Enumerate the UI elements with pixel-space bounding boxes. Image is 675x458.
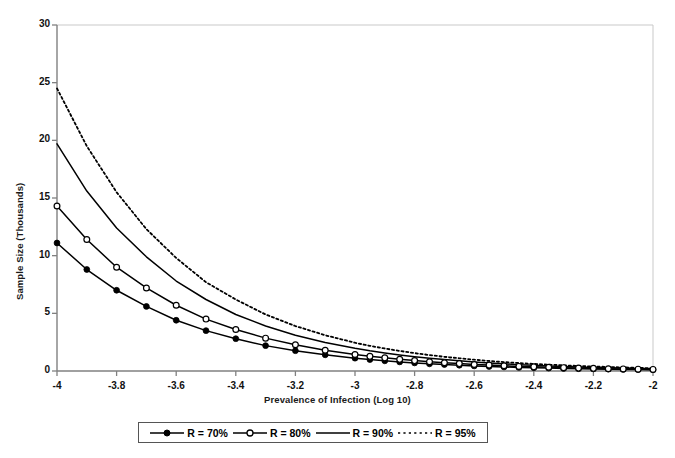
data-point-marker — [352, 352, 358, 358]
legend-label: R = 70% — [186, 427, 230, 439]
y-axis-tick-label: 30 — [10, 18, 50, 29]
data-point-marker — [561, 365, 567, 371]
data-point-marker — [144, 304, 150, 310]
data-point-marker — [620, 366, 626, 372]
data-point-marker — [263, 335, 269, 341]
x-axis-tick-label: -2 — [628, 380, 675, 391]
legend-label: R = 95% — [434, 427, 478, 439]
data-point-marker — [203, 316, 209, 322]
data-point-marker — [605, 366, 611, 372]
data-point-marker — [322, 347, 328, 353]
x-axis-title: Prevalence of Infection (Log 10) — [0, 394, 675, 405]
y-axis-tick-label: 0 — [10, 364, 50, 375]
x-axis-tick-label: -3.4 — [211, 380, 261, 391]
series-line-2 — [57, 144, 653, 369]
legend-swatch-filled-circle-solid — [148, 427, 186, 439]
y-axis-tick-label: 15 — [10, 191, 50, 202]
data-point-marker — [516, 363, 522, 369]
y-axis-tick-label: 20 — [10, 133, 50, 144]
data-point-marker — [546, 364, 552, 370]
data-point-marker — [367, 353, 373, 359]
data-point-marker — [442, 360, 448, 366]
legend-marker — [164, 430, 170, 436]
data-point-marker — [635, 366, 641, 372]
legend-item-3: R = 95% — [396, 427, 478, 439]
x-axis-tick-label: -3 — [330, 380, 380, 391]
data-point-marker — [486, 362, 492, 368]
legend-swatch-none-solid — [314, 427, 352, 439]
data-point-marker — [54, 203, 60, 209]
data-point-marker — [54, 240, 60, 246]
data-point-marker — [173, 317, 179, 323]
x-axis-tick-label: -3.6 — [151, 380, 201, 391]
data-point-marker — [531, 364, 537, 370]
y-axis-tick-label: 25 — [10, 76, 50, 87]
data-point-marker — [382, 355, 388, 361]
data-point-marker — [114, 287, 120, 293]
data-point-marker — [650, 366, 656, 372]
legend-item-1: R = 80% — [231, 427, 313, 439]
legend-swatch-open-circle-solid — [231, 427, 269, 439]
chart-figure: Sample Size (Thousands) Prevalence of In… — [0, 0, 675, 458]
data-point-marker — [591, 365, 597, 371]
data-point-marker — [576, 365, 582, 371]
x-axis-tick-label: -2.8 — [390, 380, 440, 391]
data-point-marker — [397, 356, 403, 362]
legend-swatch-none-dotted — [396, 427, 434, 439]
y-axis-tick-label: 10 — [10, 249, 50, 260]
legend-label: R = 90% — [352, 427, 396, 439]
data-point-marker — [84, 267, 90, 273]
x-axis-tick-label: -2.2 — [568, 380, 618, 391]
data-point-marker — [233, 327, 239, 333]
chart-legend: R = 70%R = 80%R = 90%R = 95% — [138, 422, 488, 443]
data-point-marker — [114, 264, 120, 270]
legend-item-0: R = 70% — [148, 427, 230, 439]
data-point-marker — [471, 362, 477, 368]
data-point-marker — [233, 336, 239, 342]
legend-item-2: R = 90% — [314, 427, 396, 439]
x-axis-tick-label: -2.6 — [449, 380, 499, 391]
data-point-marker — [501, 363, 507, 369]
data-point-marker — [293, 348, 299, 354]
data-point-marker — [263, 343, 269, 349]
data-point-marker — [427, 359, 433, 365]
data-point-marker — [456, 361, 462, 367]
data-point-marker — [84, 237, 90, 243]
data-point-marker — [144, 285, 150, 291]
x-axis-tick-label: -2.4 — [509, 380, 559, 391]
data-point-marker — [412, 358, 418, 364]
data-point-marker — [203, 328, 209, 334]
data-point-marker — [293, 342, 299, 348]
data-point-marker — [173, 302, 179, 308]
legend-marker — [247, 430, 253, 436]
legend-label: R = 80% — [269, 427, 313, 439]
x-axis-tick-label: -3.2 — [270, 380, 320, 391]
x-axis-tick-label: -4 — [32, 380, 82, 391]
x-axis-tick-label: -3.8 — [92, 380, 142, 391]
y-axis-tick-label: 5 — [10, 306, 50, 317]
series-line-3 — [57, 88, 653, 368]
